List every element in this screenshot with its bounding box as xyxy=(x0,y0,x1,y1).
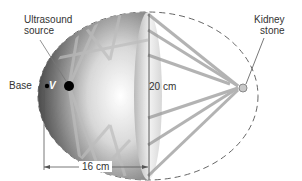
width-dimension-label: 16 cm xyxy=(79,161,112,172)
height-dimension-label: 20 cm xyxy=(149,81,176,92)
ultrasound-source-dot xyxy=(64,81,74,91)
base-label: Base xyxy=(9,80,32,91)
ultrasound-label-line1: Ultrasound xyxy=(24,14,72,25)
kidney-label-line2: stone xyxy=(254,25,285,36)
kidney-label-line1: Kidney xyxy=(254,14,285,25)
kidney-stone xyxy=(239,84,247,92)
ultrasound-label-line2: source xyxy=(24,25,72,36)
vertex-label: V xyxy=(49,80,56,91)
ultrasound-source-label: Ultrasound source xyxy=(24,14,72,36)
lithotripter-diagram: Ultrasound source Kidney stone Base V 20… xyxy=(0,0,302,181)
kidney-stone-label: Kidney stone xyxy=(254,14,285,36)
